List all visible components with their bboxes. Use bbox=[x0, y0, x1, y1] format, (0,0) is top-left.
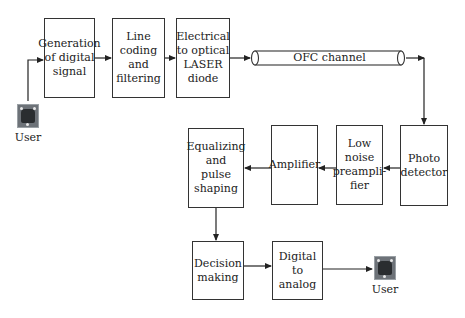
block-electrical-to-optical: Electrical to optical LASER diode bbox=[176, 18, 230, 98]
block-line-coding-filtering: Line coding and filtering bbox=[112, 18, 165, 98]
block-generation-digital-signal: Generation of digital signal bbox=[44, 18, 95, 98]
block-low-noise-preamplifier: Low noise preampli- fier bbox=[336, 125, 383, 205]
block-photo-detector: Photo detector bbox=[400, 125, 448, 206]
sink-user-label: User bbox=[367, 283, 403, 296]
telephone-icon-source bbox=[17, 104, 39, 128]
block-equalizing-pulse-shaping: Equalizing and pulse shaping bbox=[188, 128, 244, 208]
block-digital-to-analog: Digital to analog bbox=[272, 241, 323, 300]
block-decision-making: Decision making bbox=[192, 241, 244, 300]
source-user-label: User bbox=[10, 131, 46, 144]
telephone-icon-sink bbox=[374, 256, 396, 280]
block-amplifier: Amplifier bbox=[271, 125, 318, 205]
ofc-channel-label: OFC channel bbox=[258, 51, 401, 65]
